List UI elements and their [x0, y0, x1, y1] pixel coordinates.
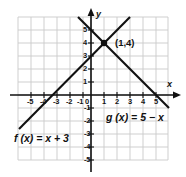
graph-figure: -5 -4 -3 -2 -1 0 1 2 3 4 5 5 4 3 2 1 -1 …: [0, 0, 186, 177]
y-tick-label--2: -2: [84, 117, 90, 125]
x-tick-label-2: 2: [115, 98, 119, 106]
y-tick-label-3: 3: [83, 52, 87, 60]
x-tick-label-4: 4: [141, 98, 145, 106]
x-tick-label--3: -3: [53, 98, 59, 106]
y-tick-label--5: -5: [84, 156, 90, 164]
y-tick-label-2: 2: [83, 65, 87, 73]
y-tick-label--1: -1: [84, 104, 90, 112]
y-tick-label-1: 1: [83, 78, 87, 86]
figure-background: [0, 0, 186, 177]
x-tick-label-1: 1: [102, 98, 106, 106]
y-tick-label-4: 4: [83, 39, 87, 47]
y-tick-label--3: -3: [84, 130, 90, 138]
x-tick-label--1: -1: [77, 98, 83, 106]
f-function-label: f (x) = x + 3: [14, 133, 69, 144]
x-axis-label: x: [167, 80, 172, 89]
x-tick-label-5: 5: [154, 98, 158, 106]
g-function-label: g (x) = 5 − x: [106, 112, 164, 123]
y-axis-label: y: [96, 10, 101, 19]
coordinate-plane: [0, 0, 186, 177]
intersection-point-marker: [101, 40, 107, 46]
x-tick-label--4: -4: [40, 98, 46, 106]
x-tick-label--5: -5: [27, 98, 33, 106]
intersection-point-label: (1,4): [115, 38, 135, 48]
y-tick-label-5: 5: [83, 26, 87, 34]
y-tick-label--4: -4: [84, 143, 90, 151]
x-tick-label--2: -2: [66, 98, 72, 106]
x-tick-label-3: 3: [128, 98, 132, 106]
